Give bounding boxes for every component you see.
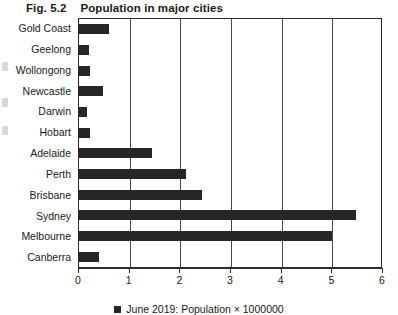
figure-caption: Population in major cities <box>80 2 223 14</box>
y-axis-label: Geelong <box>0 39 76 60</box>
bar-row <box>79 164 381 185</box>
legend-label: June 2019: Population × 1000000 <box>126 304 283 315</box>
x-axis-tick-label: 3 <box>227 275 233 286</box>
bar-row <box>79 226 381 247</box>
bar-row <box>79 40 381 61</box>
bar <box>79 231 332 241</box>
y-axis-label: Hobart <box>0 122 76 143</box>
x-axis-tick-label: 5 <box>328 275 334 286</box>
x-axis-tick <box>382 268 383 273</box>
bar <box>79 210 356 220</box>
x-axis-tick-label: 2 <box>176 275 182 286</box>
bar-row <box>79 184 381 205</box>
x-axis-tick-label: 6 <box>379 275 385 286</box>
bar-row <box>79 102 381 123</box>
bar-row <box>79 19 381 40</box>
bar-row <box>79 81 381 102</box>
bar <box>79 45 89 55</box>
bar-row <box>79 60 381 81</box>
x-axis-tick <box>331 268 332 273</box>
y-axis-label: Wollongong <box>0 60 76 81</box>
bar <box>79 128 90 138</box>
bar <box>79 190 202 200</box>
bar-row <box>79 143 381 164</box>
y-axis-label: Canberra <box>0 247 76 268</box>
y-axis-label: Gold Coast <box>0 18 76 39</box>
x-axis-tick <box>78 268 79 273</box>
x-axis-tick <box>281 268 282 273</box>
bar-row <box>79 205 381 226</box>
bar <box>79 252 99 262</box>
bar <box>79 169 186 179</box>
x-axis-tick-label: 1 <box>126 275 132 286</box>
x-axis-tick <box>179 268 180 273</box>
figure-number: Fig. 5.2 <box>26 2 66 14</box>
plot-area <box>78 18 382 268</box>
x-axis-tick-label: 4 <box>278 275 284 286</box>
bar <box>79 66 90 76</box>
square-marker-icon <box>114 306 121 313</box>
bar-row <box>79 122 381 143</box>
bar <box>79 86 103 96</box>
bar <box>79 24 109 34</box>
y-axis-label: Darwin <box>0 101 76 122</box>
x-axis-tick <box>129 268 130 273</box>
x-axis-tick <box>230 268 231 273</box>
y-axis-label: Perth <box>0 164 76 185</box>
bar-row <box>79 246 381 267</box>
plot-wrapper: Gold CoastGeelongWollongongNewcastleDarw… <box>0 18 398 311</box>
figure-title: Fig. 5.2 Population in major cities <box>26 2 223 14</box>
x-axis-tick-label: 0 <box>75 275 81 286</box>
bar <box>79 148 152 158</box>
y-axis-label: Brisbane <box>0 185 76 206</box>
y-axis-label: Melbourne <box>0 226 76 247</box>
y-axis-label: Adelaide <box>0 143 76 164</box>
bar-series <box>79 19 381 267</box>
y-axis-label: Newcastle <box>0 80 76 101</box>
y-axis-category-labels: Gold CoastGeelongWollongongNewcastleDarw… <box>0 18 76 268</box>
chart-legend: June 2019: Population × 1000000 <box>0 304 398 315</box>
bar <box>79 107 87 117</box>
y-axis-label: Sydney <box>0 205 76 226</box>
x-axis: 0123456 <box>78 268 382 298</box>
